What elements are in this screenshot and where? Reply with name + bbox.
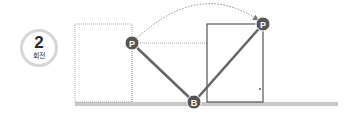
rotation-arc <box>137 4 258 38</box>
segment-p-b-left <box>132 43 194 102</box>
point-p-start: P <box>125 36 139 50</box>
svg-text:P: P <box>260 20 266 30</box>
svg-text:P: P <box>129 39 135 49</box>
rotated-rectangle <box>207 24 263 102</box>
original-rectangle <box>75 24 132 102</box>
svg-text:B: B <box>191 98 198 108</box>
point-p-end: P <box>256 17 270 31</box>
point-b-pivot: B <box>187 95 201 109</box>
marker-dot <box>259 88 261 90</box>
segment-b-p-right <box>194 24 263 102</box>
rotation-diagram: P P B <box>0 0 355 116</box>
